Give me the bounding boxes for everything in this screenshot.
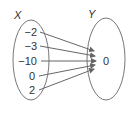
mapping-diagram: X Y −2 −3 −10 0 2 0 <box>0 0 131 113</box>
range-value: 0 <box>103 55 109 67</box>
domain-value: −2 <box>24 26 37 38</box>
mapping-arrows <box>39 32 96 90</box>
domain-value: −3 <box>24 40 37 52</box>
arrow <box>39 65 95 76</box>
domain-value: −10 <box>18 55 37 67</box>
domain-value: 2 <box>29 84 35 96</box>
domain-label: X <box>13 9 22 21</box>
range-label: Y <box>88 8 96 20</box>
domain-value: 0 <box>29 70 35 82</box>
